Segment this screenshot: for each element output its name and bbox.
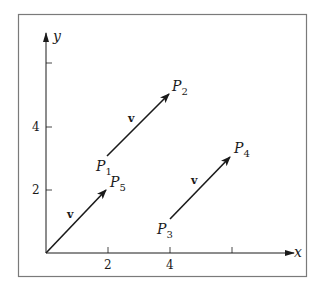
vector-translation-diagram: x y 2 4 2 4 v v v P1 P2 P3 P4 xyxy=(0,0,321,289)
x-axis-label: x xyxy=(294,244,302,260)
vector-label-v-2: v xyxy=(127,112,135,125)
y-tick-label-4: 4 xyxy=(32,120,40,134)
x-tick-label-4: 4 xyxy=(166,258,174,272)
point-label-p2: P2 xyxy=(171,78,188,97)
vector-origin-to-p5 xyxy=(46,190,106,253)
point-label-p5: P5 xyxy=(109,174,126,193)
vector-p3-to-p4 xyxy=(170,157,230,219)
vector-p1-to-p2 xyxy=(107,94,169,156)
y-axis-label: y xyxy=(52,28,62,44)
point-label-p3: P3 xyxy=(156,221,173,240)
y-tick-label-2: 2 xyxy=(32,183,40,197)
x-tick-label-2: 2 xyxy=(104,258,112,272)
vectors: v v v xyxy=(46,94,230,253)
point-label-p4: P4 xyxy=(233,140,250,159)
vector-label-v-3: v xyxy=(190,174,198,187)
vector-label-v-1: v xyxy=(66,208,74,221)
